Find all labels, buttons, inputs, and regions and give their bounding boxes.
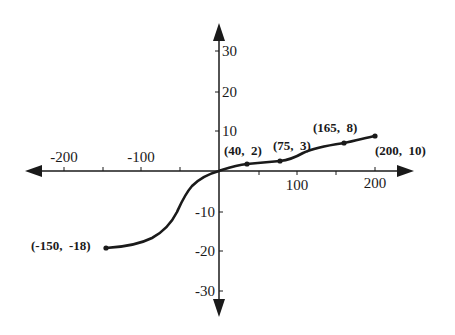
y-tick-label: -10 (195, 204, 215, 220)
y-tick-label: 20 (222, 84, 237, 100)
x-tick-label: 100 (286, 177, 309, 193)
x-axis-left-arrow-icon (25, 165, 42, 177)
y-axis-down-arrow-icon (213, 299, 225, 317)
data-point (341, 140, 346, 145)
x-tick-label: 200 (364, 175, 387, 191)
x-tick-label: -100 (127, 149, 155, 165)
data-point (103, 245, 108, 250)
y-tick-label: -30 (195, 283, 215, 299)
point-label: (-150, -18) (31, 238, 91, 253)
point-label: (165, 8) (313, 120, 357, 135)
data-point (244, 161, 249, 166)
y-axis-up-arrow-icon (213, 23, 225, 41)
y-tick-label: -20 (195, 243, 215, 259)
x-tick-label: -200 (50, 149, 78, 165)
y-axis: 30 20 10 -10 -20 -30 (195, 23, 237, 317)
y-tick-label: 10 (222, 123, 237, 139)
x-axis-right-arrow-icon (397, 165, 414, 177)
data-point (372, 133, 377, 138)
data-point (277, 158, 282, 163)
y-tick-label: 30 (222, 43, 237, 59)
chart: -200 -100 100 200 30 20 10 -10 -20 -30 (0, 0, 455, 335)
point-label: (40, 2) (224, 143, 262, 158)
point-label: (200, 10) (375, 143, 426, 158)
point-label: (75, 3) (273, 138, 311, 153)
